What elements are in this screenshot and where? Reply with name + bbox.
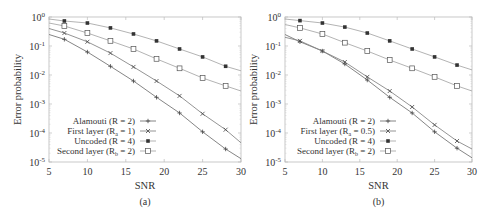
panel-caption: (a) — [139, 196, 150, 208]
panel-caption: (b) — [373, 196, 385, 208]
y-tick-label: 10-4 — [29, 127, 45, 139]
series-square — [285, 25, 472, 92]
chart-panel-b: 5101520253010010-110-210-310-410-5SNRErr… — [248, 11, 477, 209]
y-tick-label: 10-1 — [265, 40, 281, 52]
series-plus — [285, 35, 472, 158]
y-tick-label: 10-2 — [29, 69, 45, 81]
y-tick-label: 10-2 — [265, 69, 281, 81]
series-star — [49, 19, 241, 71]
series-star — [285, 19, 472, 70]
series-square — [49, 23, 241, 91]
legend-label: Uncoded (R = 4) — [74, 136, 135, 146]
legend-label: Alamouti (R = 2) — [73, 116, 135, 126]
legend-label: Second layer (Rb = 2) — [297, 146, 375, 157]
x-tick-label: 30 — [236, 166, 246, 177]
x-tick-label: 20 — [159, 166, 169, 177]
plot-frame — [285, 17, 472, 162]
x-axis-label: SNR — [135, 180, 155, 191]
y-tick-label: 100 — [268, 11, 282, 23]
y-tick-label: 100 — [32, 11, 46, 23]
y-axis-label: Error probability — [12, 53, 23, 125]
legend-label: Uncoded (R = 4) — [314, 136, 375, 146]
y-tick-label: 10-3 — [29, 98, 45, 110]
x-tick-label: 20 — [392, 166, 402, 177]
x-tick-label: 5 — [283, 166, 288, 177]
x-tick-label: 10 — [317, 166, 327, 177]
y-axis-label: Error probability — [248, 53, 259, 125]
x-tick-label: 30 — [467, 166, 477, 177]
legend-label: Alamouti (R = 2) — [313, 116, 375, 126]
y-tick-label: 10-5 — [29, 156, 45, 168]
figure: 5101520253010010-110-210-310-410-5SNRErr… — [0, 0, 495, 214]
y-tick-label: 10-3 — [265, 98, 281, 110]
legend: Alamouti (R = 2)First layer (Ra = 1)Unco… — [57, 116, 156, 157]
x-tick-label: 25 — [198, 166, 208, 177]
x-axis-label: SNR — [368, 180, 388, 191]
y-tick-label: 10-4 — [265, 127, 281, 139]
chart-panel-a: 5101520253010010-110-210-310-410-5SNRErr… — [12, 11, 246, 209]
x-tick-label: 25 — [430, 166, 440, 177]
x-tick-label: 15 — [121, 166, 131, 177]
legend-label: Second layer (Rb = 2) — [57, 146, 135, 157]
y-tick-label: 10-1 — [29, 40, 45, 52]
x-tick-label: 15 — [355, 166, 365, 177]
y-tick-label: 10-5 — [265, 156, 281, 168]
legend: Alamouti (R = 2)First layer (Ra = 0.5)Un… — [297, 116, 396, 157]
error-probability-charts: 5101520253010010-110-210-310-410-5SNRErr… — [0, 0, 495, 214]
x-tick-label: 10 — [82, 166, 92, 177]
x-tick-label: 5 — [47, 166, 52, 177]
